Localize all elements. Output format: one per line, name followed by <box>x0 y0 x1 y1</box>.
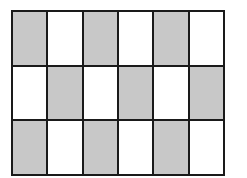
unshaded-cell <box>154 67 187 120</box>
unshaded-cell <box>190 121 223 174</box>
shaded-cell <box>190 67 223 120</box>
shaded-cell <box>13 12 46 65</box>
shaded-cell <box>13 121 46 174</box>
shaded-grid <box>11 10 225 176</box>
unshaded-cell <box>48 121 81 174</box>
unshaded-cell <box>48 12 81 65</box>
unshaded-cell <box>119 121 152 174</box>
shaded-cell <box>84 12 117 65</box>
unshaded-cell <box>84 67 117 120</box>
shaded-cell <box>84 121 117 174</box>
unshaded-cell <box>190 12 223 65</box>
unshaded-cell <box>13 67 46 120</box>
shaded-cell <box>154 12 187 65</box>
shaded-cell <box>154 121 187 174</box>
shaded-cell <box>119 67 152 120</box>
unshaded-cell <box>119 12 152 65</box>
shaded-cell <box>48 67 81 120</box>
